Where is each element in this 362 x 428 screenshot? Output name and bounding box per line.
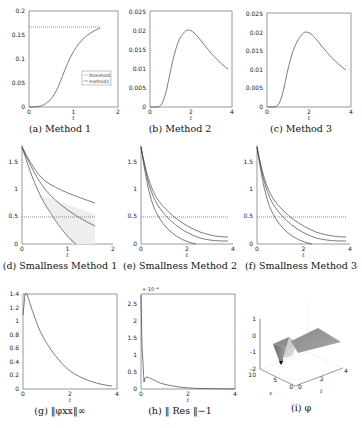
svg-text:t: t (302, 251, 305, 258)
panel-smallness-2: 00.511.5 024 t (e) Smallness Method 2 (120, 140, 240, 285)
svg-text:0.02: 0.02 (133, 27, 147, 34)
caption-d: (d) Smallness Method 1 (0, 260, 120, 271)
svg-text:0.025: 0.025 (129, 8, 146, 15)
svg-text:x: x (269, 389, 273, 396)
svg-text:0: 0 (139, 245, 143, 252)
caption-f: (f) Smallness Method 3 (240, 260, 362, 271)
svg-text:t: t (72, 114, 75, 121)
svg-text:1: 1 (14, 185, 18, 192)
svg-text:0: 0 (252, 332, 256, 339)
svg-text:0.5: 0.5 (243, 212, 253, 219)
svg-text:4: 4 (233, 390, 237, 397)
panel-smallness-3: 00.511.5 024 t (f) Smallness Method 3 (240, 140, 362, 285)
svg-text:4: 4 (349, 108, 353, 115)
svg-text:0.02: 0.02 (250, 29, 264, 36)
svg-text:0.025: 0.025 (246, 10, 263, 17)
svg-text:t: t (187, 396, 190, 403)
svg-text:5: 5 (273, 376, 277, 383)
svg-text:10: 10 (248, 371, 256, 378)
svg-text:threshold: threshold (89, 73, 110, 78)
caption-h: (h) ‖ Res ‖−1 (120, 405, 240, 416)
svg-text:0.015: 0.015 (129, 46, 146, 53)
svg-text:0: 0 (148, 108, 152, 115)
svg-text:0.05: 0.05 (12, 79, 26, 86)
svg-text:1: 1 (249, 185, 253, 192)
svg-text:0.015: 0.015 (246, 47, 263, 54)
svg-text:0.4: 0.4 (9, 358, 19, 365)
caption-c: (c) Method 3 (240, 123, 362, 134)
svg-text:0.15: 0.15 (12, 31, 26, 38)
svg-text:4: 4 (231, 245, 235, 252)
svg-text:1: 1 (133, 185, 137, 192)
svg-text:1: 1 (15, 317, 19, 324)
svg-text:0: 0 (139, 390, 143, 397)
svg-text:0: 0 (142, 103, 146, 110)
svg-text:0: 0 (21, 103, 25, 110)
svg-text:0.005: 0.005 (246, 84, 263, 91)
svg-text:0: 0 (133, 385, 137, 392)
svg-text:1.4: 1.4 (9, 290, 19, 297)
caption-a: (a) Method 1 (0, 123, 120, 134)
chart-c: 00.0050.010.0150.020.025 024 t (240, 0, 362, 140)
svg-text:2.5: 2.5 (127, 300, 137, 307)
svg-text:0: 0 (289, 383, 293, 390)
svg-text:0.1: 0.1 (15, 55, 25, 62)
svg-text:t: t (66, 251, 69, 258)
svg-text:-1: -1 (250, 348, 256, 355)
svg-text:0.01: 0.01 (133, 65, 147, 72)
svg-text:t: t (69, 396, 72, 403)
caption-e: (e) Smallness Method 2 (120, 260, 240, 271)
chart-b: 00.0050.010.0150.020.025 024 t (120, 0, 240, 140)
svg-text:0.5: 0.5 (127, 368, 137, 375)
svg-text:4: 4 (115, 390, 119, 397)
svg-text:0: 0 (20, 245, 24, 252)
svg-text:method1: method1 (89, 79, 109, 84)
panel-method-2: 00.0050.010.0150.020.025 024 t (b) Metho… (120, 0, 240, 140)
caption-i: (i) φ (240, 402, 362, 413)
svg-text:0: 0 (259, 103, 263, 110)
svg-text:0: 0 (21, 390, 25, 397)
svg-text:0.2: 0.2 (9, 371, 19, 378)
svg-text:0: 0 (255, 245, 259, 252)
svg-text:0.01: 0.01 (250, 66, 264, 73)
svg-text:1: 1 (133, 351, 137, 358)
panel-method-3: 00.0050.010.0150.020.025 024 t (c) Metho… (240, 0, 362, 140)
svg-text:0: 0 (249, 240, 253, 247)
svg-text:t: t (190, 114, 193, 121)
svg-text:2: 2 (320, 375, 324, 382)
svg-text:0.5: 0.5 (8, 212, 18, 219)
svg-text:0: 0 (15, 385, 19, 392)
svg-text:0.6: 0.6 (9, 344, 19, 351)
svg-text:1: 1 (252, 315, 256, 322)
svg-text:1.5: 1.5 (8, 158, 18, 165)
svg-text:1.2: 1.2 (9, 304, 19, 311)
svg-text:0.2: 0.2 (15, 7, 25, 14)
caption-b: (b) Method 2 (120, 123, 240, 134)
caption-g: (g) ‖φxx‖∞ (0, 405, 120, 416)
svg-text:1.5: 1.5 (127, 334, 137, 341)
svg-text:t: t (308, 114, 311, 121)
svg-text:2: 2 (111, 245, 115, 252)
svg-text:0: 0 (133, 240, 137, 247)
svg-text:1.5: 1.5 (127, 158, 137, 165)
svg-text:0.5: 0.5 (127, 212, 137, 219)
svg-text:t: t (320, 387, 323, 394)
svg-text:0: 0 (14, 240, 18, 247)
panel-phi-xx: 00.20.40.60.811.21.4 024 t (g) ‖φxx‖∞ (0, 285, 120, 428)
panel-residual: × 10⁻⁴ 00.511.522.5 024 t (h) ‖ Res ‖−1 (120, 285, 240, 428)
svg-text:4: 4 (348, 245, 352, 252)
svg-text:2: 2 (133, 317, 137, 324)
svg-text:4: 4 (230, 108, 234, 115)
panel-smallness-1: 00.511.5 012 t (d) Smallness Method 1 (0, 140, 120, 285)
svg-text:× 10⁻⁴: × 10⁻⁴ (142, 286, 159, 292)
svg-text:0: 0 (298, 383, 302, 390)
svg-text:1.5: 1.5 (243, 158, 253, 165)
svg-text:t: t (186, 251, 189, 258)
svg-text:0: 0 (27, 108, 31, 115)
panel-phi-surface: 10-1-2 1050 024 x t (i) φ (240, 285, 362, 428)
svg-text:0: 0 (265, 108, 269, 115)
svg-text:0.005: 0.005 (129, 84, 146, 91)
chart-a: 00.050.10.150.2 012 t threshold method1 (0, 0, 120, 140)
svg-text:0.8: 0.8 (9, 331, 19, 338)
panel-method-1: 00.050.10.150.2 012 t threshold method1 … (0, 0, 120, 140)
